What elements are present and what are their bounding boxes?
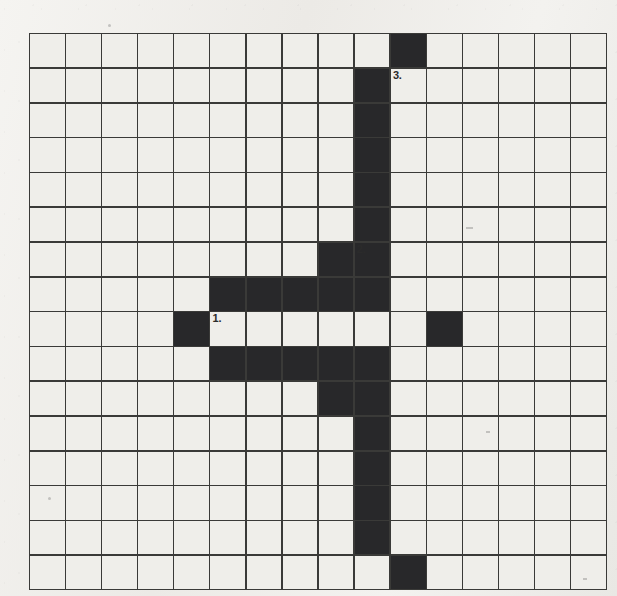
grid-cell-r14-c2[interactable] xyxy=(102,521,137,554)
grid-cell-r6-c12[interactable] xyxy=(463,243,498,276)
grid-cell-r5-c0[interactable] xyxy=(30,208,65,241)
grid-cell-r13-c1[interactable] xyxy=(66,486,101,519)
grid-cell-r6-c14[interactable] xyxy=(535,243,570,276)
grid-cell-r6-c6[interactable] xyxy=(247,243,282,276)
grid-cell-r10-c0[interactable] xyxy=(30,382,65,415)
grid-cell-r4-c1[interactable] xyxy=(66,173,101,206)
grid-cell-r11-c10[interactable] xyxy=(391,417,426,450)
grid-cell-r10-c4[interactable] xyxy=(174,382,209,415)
grid-cell-r0-c10[interactable] xyxy=(391,34,426,67)
grid-cell-r8-c0[interactable] xyxy=(30,312,65,345)
grid-cell-r5-c5[interactable] xyxy=(210,208,245,241)
grid-cell-r11-c0[interactable] xyxy=(30,417,65,450)
grid-cell-r2-c12[interactable] xyxy=(463,104,498,137)
grid-cell-r15-c4[interactable] xyxy=(174,556,209,589)
grid-cell-r11-c4[interactable] xyxy=(174,417,209,450)
grid-cell-r4-c15[interactable] xyxy=(571,173,606,206)
grid-cell-r3-c1[interactable] xyxy=(66,138,101,171)
grid-cell-r12-c3[interactable] xyxy=(138,452,173,485)
grid-cell-r7-c12[interactable] xyxy=(463,278,498,311)
grid-cell-r8-c13[interactable] xyxy=(499,312,534,345)
grid-cell-r14-c9[interactable] xyxy=(355,521,390,554)
grid-cell-r14-c0[interactable] xyxy=(30,521,65,554)
grid-cell-r2-c2[interactable] xyxy=(102,104,137,137)
grid-cell-r7-c4[interactable] xyxy=(174,278,209,311)
grid-cell-r7-c0[interactable] xyxy=(30,278,65,311)
grid-cell-r3-c11[interactable] xyxy=(427,138,462,171)
grid-cell-r4-c4[interactable] xyxy=(174,173,209,206)
grid-cell-r6-c0[interactable] xyxy=(30,243,65,276)
grid-cell-r7-c5[interactable] xyxy=(210,278,245,311)
grid-cell-r9-c10[interactable] xyxy=(391,347,426,380)
grid-cell-r0-c0[interactable] xyxy=(30,34,65,67)
grid-cell-r6-c7[interactable] xyxy=(283,243,318,276)
grid-cell-r10-c15[interactable] xyxy=(571,382,606,415)
grid-cell-r0-c12[interactable] xyxy=(463,34,498,67)
grid-cell-r15-c0[interactable] xyxy=(30,556,65,589)
grid-cell-r13-c7[interactable] xyxy=(283,486,318,519)
grid-cell-r1-c1[interactable] xyxy=(66,69,101,102)
grid-cell-r13-c0[interactable] xyxy=(30,486,65,519)
grid-cell-r5-c1[interactable] xyxy=(66,208,101,241)
grid-cell-r3-c15[interactable] xyxy=(571,138,606,171)
grid-cell-r2-c5[interactable] xyxy=(210,104,245,137)
grid-cell-r2-c4[interactable] xyxy=(174,104,209,137)
grid-cell-r5-c11[interactable] xyxy=(427,208,462,241)
grid-cell-r5-c14[interactable] xyxy=(535,208,570,241)
grid-cell-r1-c14[interactable] xyxy=(535,69,570,102)
grid-cell-r9-c3[interactable] xyxy=(138,347,173,380)
grid-cell-r5-c8[interactable] xyxy=(319,208,354,241)
grid-cell-r7-c13[interactable] xyxy=(499,278,534,311)
grid-cell-r15-c5[interactable] xyxy=(210,556,245,589)
grid-cell-r7-c2[interactable] xyxy=(102,278,137,311)
grid-cell-r5-c4[interactable] xyxy=(174,208,209,241)
grid-cell-r15-c13[interactable] xyxy=(499,556,534,589)
grid-cell-r1-c15[interactable] xyxy=(571,69,606,102)
grid-cell-r11-c15[interactable] xyxy=(571,417,606,450)
grid-cell-r0-c1[interactable] xyxy=(66,34,101,67)
grid-cell-r6-c8[interactable] xyxy=(319,243,354,276)
grid-cell-r3-c10[interactable] xyxy=(391,138,426,171)
grid-cell-r11-c13[interactable] xyxy=(499,417,534,450)
grid-cell-r0-c4[interactable] xyxy=(174,34,209,67)
grid-cell-r14-c3[interactable] xyxy=(138,521,173,554)
grid-cell-r12-c9[interactable] xyxy=(355,452,390,485)
grid-cell-r11-c1[interactable] xyxy=(66,417,101,450)
grid-cell-r14-c5[interactable] xyxy=(210,521,245,554)
grid-cell-r14-c1[interactable] xyxy=(66,521,101,554)
grid-cell-r11-c6[interactable] xyxy=(247,417,282,450)
grid-cell-r6-c9[interactable]: 2. xyxy=(355,243,390,276)
grid-cell-r2-c3[interactable] xyxy=(138,104,173,137)
grid-cell-r15-c3[interactable] xyxy=(138,556,173,589)
grid-cell-r4-c6[interactable] xyxy=(247,173,282,206)
grid-cell-r8-c11[interactable] xyxy=(427,312,462,345)
grid-cell-r12-c2[interactable] xyxy=(102,452,137,485)
grid-cell-r10-c9[interactable] xyxy=(355,382,390,415)
grid-cell-r12-c15[interactable] xyxy=(571,452,606,485)
grid-cell-r5-c15[interactable] xyxy=(571,208,606,241)
grid-cell-r9-c2[interactable] xyxy=(102,347,137,380)
grid-cell-r1-c9[interactable] xyxy=(355,69,390,102)
grid-cell-r2-c13[interactable] xyxy=(499,104,534,137)
grid-cell-r5-c13[interactable] xyxy=(499,208,534,241)
grid-cell-r12-c14[interactable] xyxy=(535,452,570,485)
grid-cell-r3-c4[interactable] xyxy=(174,138,209,171)
grid-cell-r11-c7[interactable] xyxy=(283,417,318,450)
grid-cell-r1-c5[interactable] xyxy=(210,69,245,102)
grid-cell-r2-c7[interactable] xyxy=(283,104,318,137)
grid-cell-r4-c9[interactable] xyxy=(355,173,390,206)
grid-cell-r8-c12[interactable] xyxy=(463,312,498,345)
grid-cell-r2-c14[interactable] xyxy=(535,104,570,137)
grid-cell-r9-c0[interactable] xyxy=(30,347,65,380)
grid-cell-r4-c8[interactable] xyxy=(319,173,354,206)
grid-cell-r3-c14[interactable] xyxy=(535,138,570,171)
grid-cell-r7-c9[interactable] xyxy=(355,278,390,311)
grid-cell-r12-c4[interactable] xyxy=(174,452,209,485)
grid-cell-r8-c3[interactable] xyxy=(138,312,173,345)
grid-cell-r2-c0[interactable] xyxy=(30,104,65,137)
grid-cell-r10-c1[interactable] xyxy=(66,382,101,415)
grid-cell-r13-c5[interactable] xyxy=(210,486,245,519)
grid-cell-r9-c7[interactable] xyxy=(283,347,318,380)
grid-cell-r14-c13[interactable] xyxy=(499,521,534,554)
grid-cell-r6-c13[interactable] xyxy=(499,243,534,276)
